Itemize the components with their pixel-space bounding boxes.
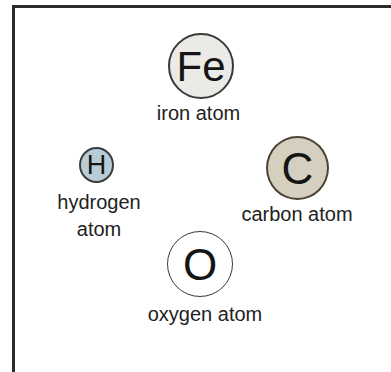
oxygen-atom-symbol: O bbox=[183, 243, 217, 287]
iron-atom-label: iron atom bbox=[148, 101, 249, 125]
iron-atom-symbol: Fe bbox=[176, 46, 225, 88]
carbon-atom-label: carbon atom bbox=[228, 202, 366, 226]
hydrogen-atom-symbol: H bbox=[87, 152, 107, 179]
oxygen-atom-label: oxygen atom bbox=[133, 302, 277, 326]
carbon-atom-circle: C bbox=[266, 136, 329, 200]
carbon-atom-symbol: C bbox=[282, 147, 314, 191]
oxygen-atom-circle: O bbox=[167, 231, 233, 297]
hydrogen-atom-circle: H bbox=[79, 147, 114, 183]
iron-atom-circle: Fe bbox=[168, 33, 234, 99]
hydrogen-atom-label: hydrogen atom bbox=[44, 189, 154, 243]
hydrogen-atom-label-line2: atom bbox=[44, 216, 154, 243]
hydrogen-atom-label-line1: hydrogen bbox=[44, 189, 154, 216]
